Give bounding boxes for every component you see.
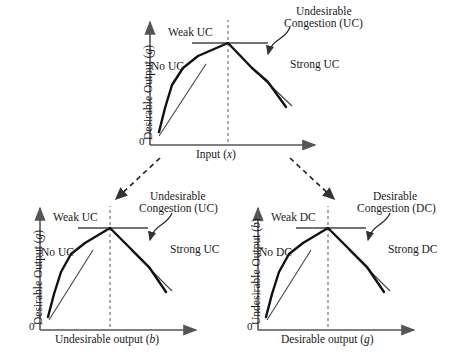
top-weak-label: Weak UC [168, 26, 213, 38]
bl-congestion-label-line2: Congestion (UC) [139, 202, 218, 214]
br-strong-label: Strong DC [388, 243, 438, 255]
figure-canvas [0, 0, 450, 357]
bl-congestion-pointer [150, 213, 172, 240]
br-frontier-curve [266, 228, 384, 317]
br-x-axis-label: Desirable output (g) [281, 333, 374, 345]
br-y-axis-label: Undesirable Output (b) [250, 218, 262, 325]
br-congestion-pointer [368, 213, 390, 240]
top-frontier-curve [159, 43, 286, 132]
top-no-label: No UC [151, 60, 184, 72]
bl-strong-label: Strong UC [170, 243, 220, 255]
bl-no-tangent [49, 250, 93, 320]
br-congestion-label-line1: Desirable [373, 190, 417, 202]
bl-origin-label: 0 [29, 321, 35, 333]
br-no-tangent [267, 250, 311, 320]
br-congestion-label-line2: Congestion (DC) [357, 202, 436, 214]
bl-y-axis-label: Desirable Output (g) [32, 230, 44, 325]
top-congestion-label-line1: Undesirable [296, 5, 352, 17]
br-weak-label: Weak DC [271, 211, 316, 223]
bottom-left-panel-graphic [40, 206, 196, 330]
figure-root: Desirable Output (g) Input (x) 0 Weak UC… [0, 0, 450, 357]
top-panel-graphic [150, 20, 315, 145]
br-no-label: No DC [259, 246, 292, 258]
bl-weak-label: Weak UC [53, 211, 98, 223]
top-x-axis-label: Input (x) [196, 148, 236, 160]
top-congestion-label-line2: Congestion (UC) [284, 17, 363, 29]
bl-frontier-curve [48, 228, 166, 317]
bl-no-label: No UC [41, 246, 74, 258]
bottom-right-panel-graphic [258, 206, 414, 330]
br-origin-label: 0 [247, 321, 253, 333]
top-origin-label: 0 [139, 136, 145, 148]
top-no-tangent [159, 64, 206, 136]
top-strong-label: Strong UC [290, 58, 340, 70]
connector-to-bottom-right [290, 158, 334, 199]
bl-x-axis-label: Undesirable output (b) [55, 333, 159, 345]
top-congestion-pointer [268, 27, 290, 54]
bl-congestion-label-line1: Undesirable [150, 190, 206, 202]
